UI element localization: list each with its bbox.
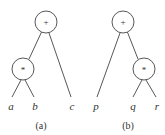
edge-root-leaf-p: [97, 33, 120, 97]
edge-root-leaf-c: [49, 33, 71, 97]
inner-operator: *: [142, 65, 147, 75]
root-operator: +: [43, 17, 48, 27]
edge-inner-leaf-q: [133, 80, 142, 97]
leaf-r: r: [155, 100, 160, 112]
caption-b: (b): [122, 120, 134, 132]
root-operator: +: [120, 17, 125, 27]
leaf-q: q: [130, 100, 136, 112]
edge-root-inner: [127, 31, 138, 59]
expression-trees-diagram: + * a b c (a) + * p q r (b): [0, 0, 165, 135]
tree-b: + * p q r (b): [92, 11, 160, 132]
edge-inner-leaf-b: [25, 80, 34, 97]
leaf-b: b: [32, 100, 38, 112]
edge-inner-leaf-a: [12, 80, 21, 97]
caption-a: (a): [35, 120, 46, 132]
leaf-c: c: [70, 100, 75, 112]
leaf-a: a: [8, 100, 14, 112]
edge-inner-leaf-r: [146, 80, 156, 97]
leaf-p: p: [92, 100, 99, 112]
tree-a: + * a b c (a): [8, 11, 74, 132]
edge-root-inner: [29, 31, 42, 59]
inner-operator: *: [21, 65, 26, 75]
